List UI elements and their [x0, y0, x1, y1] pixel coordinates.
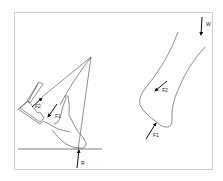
force-line-inner [60, 57, 91, 105]
finger-outline [54, 98, 66, 124]
label-w: W [206, 22, 211, 27]
r-arrow [77, 150, 79, 168]
foot-outline [52, 96, 86, 148]
tool-outline [20, 82, 44, 122]
label-f2-left: F2 [35, 104, 41, 109]
label-f2-right: F2 [162, 88, 168, 93]
label-f1-left: F1 [55, 114, 61, 119]
label-r: R [81, 161, 85, 166]
force-line-upper [42, 57, 91, 97]
right-panel [139, 17, 205, 139]
force-line-vertical [78, 57, 91, 150]
label-f1-right: F1 [153, 133, 159, 138]
tool-handle [18, 83, 70, 132]
force-diagram [0, 0, 223, 181]
w-arrow [201, 17, 202, 35]
